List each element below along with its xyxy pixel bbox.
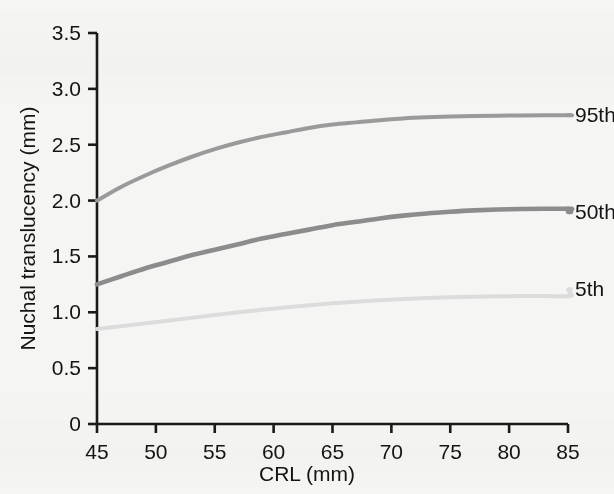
series-leader-lines [568,115,572,296]
data-series-group [97,115,568,329]
chart-plot-area [0,0,614,494]
series-label-50th: 50th [575,200,614,224]
y-tick-label: 1.5 [52,244,81,268]
series-label-95th: 95th [575,103,614,127]
x-tick-label: 45 [85,440,108,464]
x-tick-label: 75 [439,440,462,464]
y-tick-label: 2.5 [52,133,81,157]
series-line-5th [97,296,568,329]
leader-line-5th [568,289,572,296]
y-tick-label: 1.0 [52,300,81,324]
axis-ticks [88,33,568,433]
y-tick-label: 0.5 [52,356,81,380]
x-axis-title: CRL (mm) [0,462,614,486]
x-tick-label: 50 [144,440,167,464]
leader-line-50th [568,209,572,212]
y-tick-label: 3.5 [52,21,81,45]
chart-figure: 00.51.01.52.02.53.03.5 45505560657075808… [0,0,614,494]
x-tick-label: 70 [380,440,403,464]
x-tick-label: 55 [203,440,226,464]
x-tick-label: 60 [262,440,285,464]
axis-lines [97,33,568,424]
x-tick-label: 80 [497,440,520,464]
y-tick-label: 0 [69,412,81,436]
y-axis-title: Nuchal translucency (mm) [16,107,40,351]
x-tick-label: 85 [556,440,579,464]
y-tick-label: 3.0 [52,77,81,101]
x-tick-label: 65 [321,440,344,464]
y-tick-label: 2.0 [52,189,81,213]
series-line-50th [97,209,568,285]
series-line-95th [97,115,568,200]
series-label-5th: 5th [575,277,604,301]
